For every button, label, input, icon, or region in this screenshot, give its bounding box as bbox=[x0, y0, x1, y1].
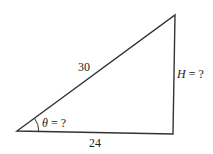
hypotenuse-label: 30 bbox=[78, 61, 90, 73]
right-triangle bbox=[17, 15, 175, 134]
height-variable: H bbox=[177, 67, 186, 81]
base-label: 24 bbox=[89, 137, 101, 149]
angle-unknown: = ? bbox=[48, 116, 66, 130]
height-label: H = ? bbox=[177, 68, 204, 80]
angle-arc bbox=[35, 118, 39, 132]
height-unknown: = ? bbox=[186, 67, 204, 81]
angle-label: θ = ? bbox=[42, 117, 66, 129]
